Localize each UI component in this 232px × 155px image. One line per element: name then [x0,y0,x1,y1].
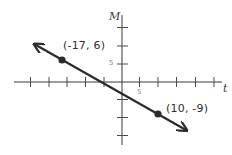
x-axis-label: t [223,83,227,94]
y-tick-label-5: 5 [109,60,113,67]
coordinate-graph [0,0,232,155]
point-a-dot [58,56,65,63]
graph-line [35,45,186,131]
point-b-label: (10, -9) [166,103,208,114]
point-b-dot [154,110,161,117]
y-axis-label: M [109,11,120,22]
x-tick-label-5: 5 [137,89,141,96]
point-a-label: (-17, 6) [63,40,105,51]
